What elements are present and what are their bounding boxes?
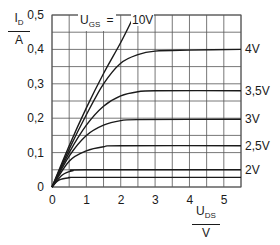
ugs-symbol: U: [80, 13, 89, 27]
y-tick-label: 0,4: [18, 43, 44, 55]
y-tick-label: 0: [18, 181, 44, 193]
y-tick-label: 0,2: [18, 112, 44, 124]
curve-label-10v: 10V: [131, 14, 154, 26]
curve-lowest: [52, 177, 241, 187]
y-tick-label: 0,5: [18, 9, 44, 21]
x-axis-subscript: DS: [205, 211, 216, 220]
x-tick-label: 1: [83, 194, 90, 206]
x-axis-label: UDS V: [192, 205, 220, 239]
ugs-subscript: GS: [89, 20, 101, 29]
curve-label: 3V: [245, 113, 260, 125]
y-tick-label: 0,3: [18, 78, 44, 90]
curve-label: 4V: [245, 43, 260, 55]
x-tick-label: 2: [118, 194, 125, 206]
x-axis-unit: V: [192, 224, 220, 239]
curve-2v: [52, 170, 241, 187]
x-tick-label: 5: [221, 194, 228, 206]
y-tick-label: 0,1: [18, 147, 44, 159]
x-tick-label: 0: [49, 194, 56, 206]
ugs-legend-header: UGS =: [78, 14, 116, 31]
curve-label: 2V: [245, 164, 260, 176]
curve-label: 2,5V: [245, 140, 270, 152]
curve-3-5v: [52, 91, 241, 187]
x-tick-label: 3: [152, 194, 159, 206]
x-tick-label: 4: [186, 194, 193, 206]
ugs-equals: =: [107, 13, 114, 27]
x-axis-symbol: U: [196, 204, 205, 218]
curve-label: 3,5V: [245, 85, 270, 97]
curve-2-5v: [52, 146, 241, 187]
